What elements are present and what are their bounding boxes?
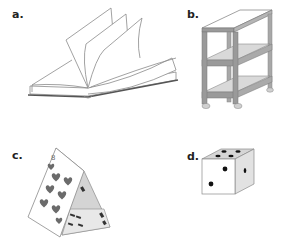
shelf-cart-illustration [142, 0, 284, 125]
card-rank: 8 [51, 154, 55, 162]
house-of-cards-illustration: 8 [0, 125, 142, 250]
panel-d: d. [142, 125, 284, 250]
panel-c: c. 8 [0, 125, 142, 250]
panel-b: b. [142, 0, 284, 125]
die-illustration [142, 125, 284, 250]
side-face-pip [244, 168, 247, 173]
